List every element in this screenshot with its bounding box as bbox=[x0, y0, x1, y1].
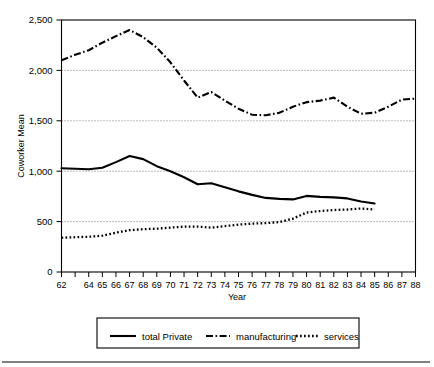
y-tick-label-1000: 1,000 bbox=[29, 166, 53, 177]
x-tick-label-67: 67 bbox=[125, 280, 135, 290]
x-tick-label-84: 84 bbox=[356, 280, 366, 290]
x-tick-label-76: 76 bbox=[247, 280, 257, 290]
x-tick-label-85: 85 bbox=[370, 280, 380, 290]
x-tick-label-70: 70 bbox=[165, 280, 175, 290]
x-tick-label-77: 77 bbox=[261, 280, 271, 290]
x-tick-label-82: 82 bbox=[329, 280, 339, 290]
x-axis-title: Year bbox=[228, 292, 246, 302]
x-tick-label-83: 83 bbox=[342, 280, 352, 290]
y-tick-label-1500: 1,500 bbox=[29, 115, 53, 126]
x-tick-label-62: 62 bbox=[56, 280, 66, 290]
y-tick-label-2500: 2,500 bbox=[29, 14, 53, 25]
x-tick-label-78: 78 bbox=[274, 280, 284, 290]
figure-background bbox=[0, 0, 434, 367]
x-tick-label-71: 71 bbox=[179, 280, 189, 290]
x-tick-label-87: 87 bbox=[397, 280, 407, 290]
x-tick-label-81: 81 bbox=[315, 280, 325, 290]
x-tick-label-80: 80 bbox=[302, 280, 312, 290]
y-axis-title: Coworker Mean bbox=[16, 114, 26, 178]
x-tick-label-64: 64 bbox=[84, 280, 94, 290]
y-tick-label-0: 0 bbox=[47, 266, 52, 277]
coworker-mean-line-chart: 05001,0001,5002,0002,500 626465666768697… bbox=[0, 0, 434, 367]
x-tick-label-72: 72 bbox=[193, 280, 203, 290]
x-tick-label-74: 74 bbox=[220, 280, 230, 290]
x-tick-label-66: 66 bbox=[111, 280, 121, 290]
x-tick-label-73: 73 bbox=[206, 280, 216, 290]
legend-label: manufacturing bbox=[236, 331, 296, 342]
legend-label: total Private bbox=[142, 331, 192, 342]
x-tick-label-65: 65 bbox=[97, 280, 107, 290]
legend-label: services bbox=[324, 331, 359, 342]
x-tick-label-88: 88 bbox=[410, 280, 420, 290]
chart-legend: total Privatemanufacturingservices bbox=[97, 318, 359, 348]
y-tick-label-500: 500 bbox=[37, 216, 53, 227]
y-tick-label-2000: 2,000 bbox=[29, 65, 53, 76]
x-tick-label-79: 79 bbox=[288, 280, 298, 290]
x-tick-label-75: 75 bbox=[233, 280, 243, 290]
x-tick-label-69: 69 bbox=[152, 280, 162, 290]
x-axis-tick-labels: 6264656667686970717273747576777879808182… bbox=[56, 280, 420, 290]
chart-figure: 05001,0001,5002,0002,500 626465666768697… bbox=[0, 0, 434, 367]
x-tick-label-86: 86 bbox=[383, 280, 393, 290]
legend-border bbox=[97, 318, 359, 348]
x-tick-label-68: 68 bbox=[138, 280, 148, 290]
